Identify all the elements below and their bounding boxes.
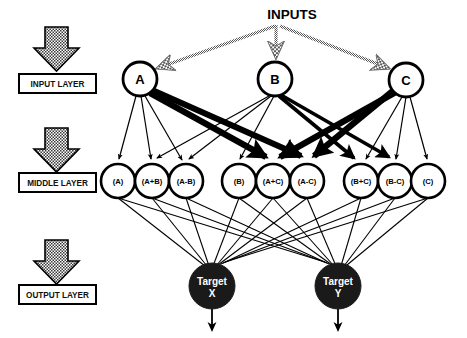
middle-node-label-apc: (A+C) (263, 177, 284, 186)
diagram-root: INPUTS INPUT LAYER MIDDLE LAYER OUTPUT L… (0, 0, 467, 338)
edge-in-c-to-mid-amc (314, 90, 394, 156)
down-arrow-icon-middle (34, 128, 79, 172)
input-node-label-a: A (135, 72, 145, 87)
middle-layer-label: MIDDLE LAYER (27, 179, 88, 188)
output-node-label-x-line2: X (209, 288, 216, 299)
edge-mid-amb-to-out-x (186, 198, 209, 266)
edge-in-a-to-mid-apb (141, 96, 151, 159)
network-diagram-canvas: INPUTS INPUT LAYER MIDDLE LAYER OUTPUT L… (0, 0, 467, 338)
edge-in-a-to-mid-apc (150, 93, 266, 157)
output-node-out-x[interactable]: Target X (189, 263, 235, 309)
layer-marker-input: INPUT LAYER (19, 27, 96, 93)
edge-mid-b-to-out-y (239, 198, 332, 265)
edge-mid-amc-to-out-x (218, 198, 307, 265)
middle-node-label-b: (B) (234, 177, 245, 186)
edge-mid-b-to-out-x (213, 198, 239, 266)
output-layer-label: OUTPUT LAYER (26, 291, 89, 300)
layer-marker-middle: MIDDLE LAYER (19, 128, 96, 192)
middle-node-label-amc: (A-C) (298, 177, 317, 186)
edge-mid-bmc-to-out-x (223, 198, 395, 263)
middle-node-mid-amb[interactable]: (A-B) (169, 164, 203, 198)
middle-node-mid-apc[interactable]: (A+C) (256, 164, 290, 198)
edges-input-to-middle-thick (150, 90, 396, 157)
input-node-in-b[interactable]: B (258, 62, 292, 96)
middle-node-label-amb: (A-B) (177, 177, 196, 186)
middle-node-label-bpc: (B+C) (351, 177, 372, 186)
middle-node-mid-apb[interactable]: (A+B) (135, 164, 169, 198)
layer-marker-output: OUTPUT LAYER (19, 240, 96, 304)
output-node-label-x-line1: Target (197, 276, 227, 287)
middle-node-mid-a[interactable]: (A) (101, 164, 135, 198)
edge-in-c-to-mid-c (410, 97, 427, 159)
input-feed-arrow-to-c (280, 26, 388, 68)
edge-in-c-to-mid-bmc (396, 97, 406, 159)
middle-node-label-apb: (A+B) (142, 177, 163, 186)
input-node-in-a[interactable]: A (123, 62, 157, 96)
edge-in-a-to-mid-a (119, 96, 136, 159)
middle-node-label-bmc: (B-C) (386, 177, 405, 186)
edge-mid-a-to-out-x (118, 198, 205, 266)
input-node-in-c[interactable]: C (389, 63, 423, 97)
middle-node-mid-bmc[interactable]: (B-C) (378, 164, 412, 198)
output-node-label-y-line1: Target (323, 276, 353, 287)
middle-node-mid-amc[interactable]: (A-C) (290, 164, 324, 198)
middle-node-mid-b[interactable]: (B) (222, 164, 256, 198)
output-exit-arrows (212, 309, 338, 330)
edges-middle-to-output (118, 198, 428, 266)
inputs-title: INPUTS (267, 7, 317, 22)
output-node-out-y[interactable]: Target Y (315, 263, 361, 309)
down-arrow-icon-output (34, 240, 79, 284)
middle-node-label-a: (A) (113, 177, 124, 186)
middle-node-label-c: (C) (423, 177, 434, 186)
input-feed-arrow-to-a (158, 26, 275, 68)
middle-node-mid-c[interactable]: (C) (411, 164, 445, 198)
middle-node-mid-bpc[interactable]: (B+C) (344, 164, 378, 198)
output-node-label-y-line2: Y (335, 288, 342, 299)
input-node-label-c: C (401, 73, 411, 88)
input-node-label-b: B (270, 72, 279, 87)
down-arrow-icon-input (34, 27, 79, 71)
input-layer-label: INPUT LAYER (31, 80, 85, 89)
